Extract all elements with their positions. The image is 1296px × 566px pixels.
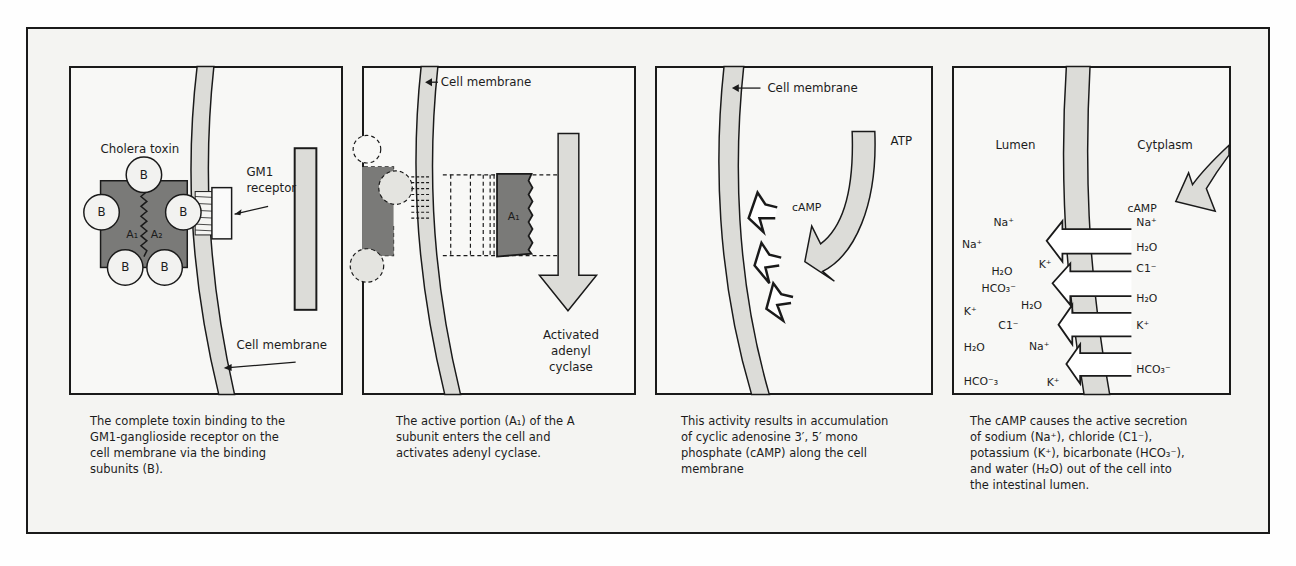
atp-label: ATP <box>891 134 913 148</box>
ion-label: K⁺ <box>1047 376 1060 389</box>
caption-panel-3: This activity results in accumulation of… <box>681 413 931 477</box>
camp-label: cAMP <box>792 201 822 214</box>
ion-label: H₂O <box>964 341 985 354</box>
cell-membrane-label: Cell membrane <box>767 81 857 95</box>
caption-panel-1: The complete toxin binding to the GM1-ga… <box>90 413 340 477</box>
caption-panel-2: The active portion (A₁) of the A subunit… <box>396 413 626 461</box>
ion-label: K⁺ <box>1039 258 1052 271</box>
gm1-label: GM1 <box>246 165 273 179</box>
membrane-arrow-icon <box>226 362 296 368</box>
camp-arrow-icon <box>766 283 793 320</box>
cell-membrane-label: Cell membrane <box>237 338 327 352</box>
ion-label: Na⁺ <box>1029 340 1049 353</box>
camp-inflow-arrow-icon <box>1176 145 1229 211</box>
adenyl-cyclase-inactive <box>295 148 317 310</box>
panel-camp-accumulation: Cell membrane ATP cAMP <box>655 66 933 395</box>
ion-label: HCO⁻₃ <box>964 375 998 388</box>
panel-toxin-binding: B B B B B A₁ A₂ Cholera toxin GM1 recept… <box>69 66 343 395</box>
panel-a1-entry: A₁ Cell membrane Activated adenyl cyclas… <box>362 66 636 395</box>
toxin-remnant <box>350 135 569 282</box>
receptor-label: receptor <box>246 181 296 195</box>
a1-label: A₁ <box>126 228 138 241</box>
ion-label: Na⁺ <box>1136 216 1156 229</box>
ion-label: K⁺ <box>964 305 977 318</box>
adenyl-label: adenyl <box>551 344 591 358</box>
ion-label: HCO₃⁻ <box>982 282 1016 295</box>
camp-arrow-icon <box>755 243 782 283</box>
ion-label: C1⁻ <box>1136 262 1156 275</box>
panel-ion-secretion: Lumen Cytplasm cAMP Na⁺ Na⁺ K⁺ H₂O HCO₃⁻… <box>952 66 1231 395</box>
ion-label: H₂O <box>991 265 1012 278</box>
cell-membrane <box>416 66 461 394</box>
caption-panel-4: The cAMP causes the active secretion of … <box>970 413 1232 493</box>
activated-label: Activated <box>543 328 599 342</box>
ion-label: H₂O <box>1136 292 1157 305</box>
cell-membrane-label: Cell membrane <box>441 75 531 89</box>
ion-label: HCO₃⁻ <box>1136 363 1170 376</box>
b-label: B <box>140 168 148 182</box>
b-label: B <box>161 260 169 274</box>
camp-arrows <box>749 193 793 321</box>
lumen-label: Lumen <box>995 138 1035 152</box>
ion-label: C1⁻ <box>998 319 1018 332</box>
ion-label: K⁺ <box>1136 319 1149 332</box>
ion-label: H₂O <box>1021 299 1042 312</box>
ion-label: Na⁺ <box>993 216 1013 229</box>
b-label: B <box>97 205 105 219</box>
activation-arrow-icon <box>539 133 596 310</box>
cholera-toxin-label: Cholera toxin <box>101 142 180 156</box>
cytoplasm-label: Cytplasm <box>1137 138 1193 152</box>
b-label: B <box>179 205 187 219</box>
cyclase-label: cyclase <box>549 360 593 374</box>
camp-label: cAMP <box>1127 202 1157 215</box>
a2-label: A₂ <box>151 228 163 241</box>
ion-label: H₂O <box>1136 241 1157 254</box>
ion-label: Na⁺ <box>962 238 982 251</box>
camp-arrow-icon <box>749 193 778 232</box>
a1-label: A₁ <box>508 210 520 223</box>
b-label: B <box>121 260 129 274</box>
